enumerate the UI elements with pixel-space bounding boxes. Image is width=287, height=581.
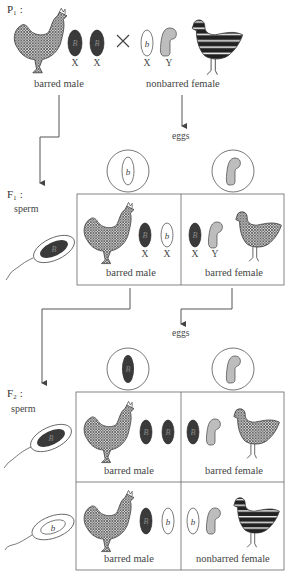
p1-generation-label: P₁ : <box>7 3 23 15</box>
svg-text:B: B <box>143 231 148 240</box>
f2-egg-x: B <box>107 348 149 390</box>
p1-hen <box>192 20 242 75</box>
f1-female-line <box>181 288 232 324</box>
f2-offspring-1-label: barred male <box>104 465 154 476</box>
p1-male-chromosome-1: B <box>68 30 82 56</box>
svg-text:B: B <box>73 39 78 48</box>
f1-offspring-female-label: barred female <box>205 267 263 278</box>
svg-text:B: B <box>193 231 198 240</box>
svg-text:B: B <box>126 365 131 374</box>
f1-female-chrom-2-label: Y <box>208 249 222 259</box>
f2-cell-2: B <box>187 409 279 458</box>
f2-sperm-b-recessive: b <box>5 509 77 550</box>
f2-eggs-label: eggs <box>172 328 189 338</box>
f1-male-chrom-1-label: X <box>138 249 152 259</box>
p1-female-chromosome-y <box>160 28 176 56</box>
p1-male-line <box>40 95 59 183</box>
f2-offspring-2-label: barred female <box>205 465 263 476</box>
f2-offspring-4-label: nonbarred female <box>196 553 270 564</box>
p1-male-chrom-2-label: X <box>90 58 104 68</box>
svg-text:b: b <box>191 517 196 527</box>
svg-text:b: b <box>126 167 131 177</box>
svg-text:B: B <box>166 428 171 437</box>
svg-text:b: b <box>51 523 56 533</box>
f2-sperm-b-dominant: B <box>4 419 76 468</box>
cross-icon <box>117 35 129 47</box>
svg-text:B: B <box>144 517 149 526</box>
svg-text:b: b <box>165 231 170 241</box>
f2-sperm-label: sperm <box>11 403 35 414</box>
f1-sperm-b-dominant: B <box>6 230 79 280</box>
p1-rooster <box>14 8 67 73</box>
svg-text:B: B <box>49 434 54 443</box>
f2-cell-3: B b <box>84 490 174 551</box>
p1-female-chrom-2-label: Y <box>162 58 176 68</box>
f2-cell-4: b <box>187 498 279 547</box>
svg-text:b: b <box>166 517 171 527</box>
svg-text:B: B <box>52 245 57 254</box>
f2-generation-label: F₂ : <box>7 387 23 399</box>
f1-sperm-label: sperm <box>14 203 38 214</box>
f1-egg-x: b <box>107 150 149 192</box>
f1-egg-y <box>212 150 254 192</box>
f1-eggs-label: eggs <box>172 131 189 141</box>
f2-offspring-3-label: barred male <box>104 553 154 564</box>
p1-male-chromosome-2: B <box>90 30 104 56</box>
svg-text:B: B <box>144 428 149 437</box>
svg-text:B: B <box>95 39 100 48</box>
p1-male-chrom-1-label: X <box>68 58 82 68</box>
f2-cell-1: B B <box>84 401 174 462</box>
f1-offspring-male-label: barred male <box>106 267 156 278</box>
p1-female-label: nonbarred female <box>146 78 220 89</box>
svg-text:B: B <box>191 428 196 437</box>
f2-egg-y <box>212 348 254 390</box>
p1-female-chromosome-x: b <box>141 30 153 56</box>
f1-cell-female: B <box>189 212 281 261</box>
p1-female-chrom-1-label: X <box>140 58 154 68</box>
svg-text:b: b <box>145 39 150 49</box>
f1-male-chrom-2-label: X <box>160 249 174 259</box>
f1-female-chrom-1-label: X <box>188 249 202 259</box>
f1-generation-label: F₁ : <box>7 188 23 200</box>
p1-male-label: barred male <box>34 78 84 89</box>
